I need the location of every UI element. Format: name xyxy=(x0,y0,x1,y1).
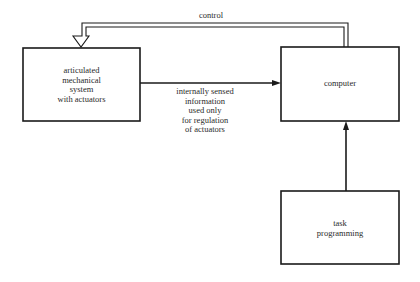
control-arrow xyxy=(73,23,348,47)
control-label: control xyxy=(180,11,242,21)
task-to-computer-arrow xyxy=(343,121,349,191)
control-label-text: control xyxy=(199,10,223,20)
label-line: of actuators xyxy=(155,125,255,135)
computer-label: computer xyxy=(281,79,399,89)
task-programming-label: task programming xyxy=(281,219,399,238)
label-line: programming xyxy=(281,229,399,239)
label-line: with actuators xyxy=(23,95,140,105)
label-line: computer xyxy=(281,79,399,89)
sensed-info-label: internally sensed information used only … xyxy=(155,87,255,135)
diagram-canvas xyxy=(0,0,420,282)
mechanical-system-label: articulated mechanical system with actua… xyxy=(23,66,140,104)
